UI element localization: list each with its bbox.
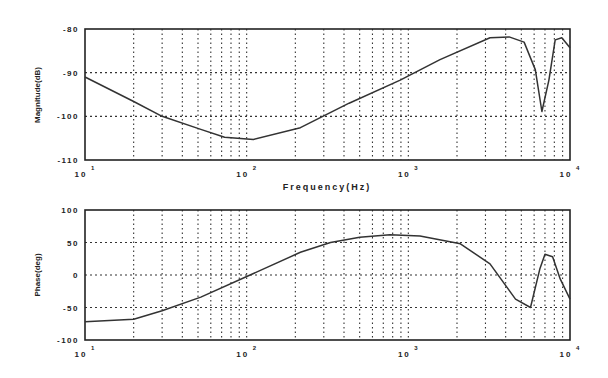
y-tick-label: -110 [57,156,79,165]
phase-curve [85,235,570,322]
x-tick-label: 10 [75,350,88,359]
y-tick-label: -80 [63,25,79,34]
x-tick-exponent: 4 [576,165,580,171]
x-tick-exponent: 2 [253,165,257,171]
y-tick-label: -90 [63,69,79,78]
phase-axis-label: Phase(deg) [33,253,42,296]
magnitude-axis-label: Magnitude(dB) [33,67,42,123]
phase-plot: 100500-50-100101102103104 [57,206,580,359]
x-tick-label: 10 [398,170,411,179]
magnitude-plot: -80-90-100-110101102103104 [57,25,580,179]
x-tick-label: 10 [560,350,573,359]
x-tick-exponent: 4 [576,345,580,351]
plot-frame [85,29,570,160]
x-tick-label: 10 [75,170,88,179]
x-tick-label: 10 [560,170,573,179]
x-tick-exponent: 2 [253,345,257,351]
magnitude-curve [85,37,570,140]
x-tick-label: 10 [236,350,249,359]
x-tick-label: 10 [236,170,249,179]
x-tick-exponent: 1 [91,165,95,171]
y-tick-label: -100 [57,336,79,345]
bode-plot: -80-90-100-110101102103104 Frequency(Hz)… [0,0,608,378]
x-tick-exponent: 3 [414,165,418,171]
x-tick-exponent: 3 [414,345,418,351]
y-tick-label: 50 [67,239,79,248]
frequency-axis-label: Frequency(Hz) [283,182,372,192]
y-tick-label: -50 [63,304,79,313]
y-tick-label: 100 [61,206,79,215]
y-tick-label: -100 [57,112,79,121]
x-tick-exponent: 1 [91,345,95,351]
x-tick-label: 10 [398,350,411,359]
y-tick-label: 0 [73,271,79,280]
